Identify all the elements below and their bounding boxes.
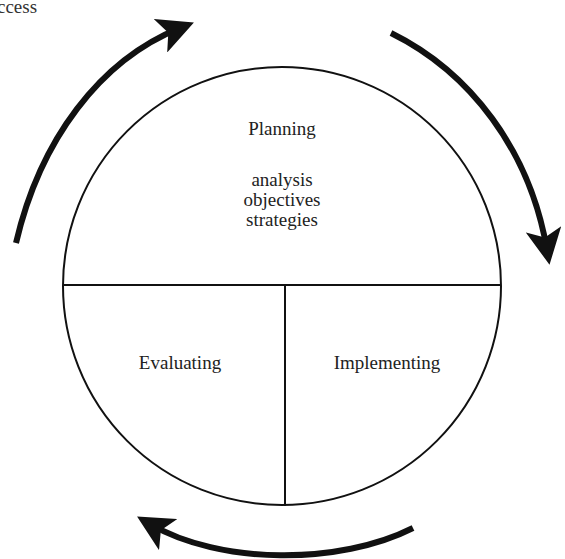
planning-item-analysis: analysis: [251, 170, 312, 190]
implementing-label: Implementing: [287, 352, 487, 374]
planning-item-strategies: strategies: [246, 210, 318, 230]
planning-items-list: analysis objectives strategies: [182, 170, 382, 230]
planning-item-objectives: objectives: [243, 190, 320, 210]
arrow-right-icon: [391, 33, 547, 250]
cycle-diagram: [0, 0, 565, 559]
evaluating-label: Evaluating: [80, 352, 280, 374]
arrow-top-left-icon: [16, 28, 180, 243]
arrow-bottom-icon: [150, 524, 413, 555]
planning-title: Planning: [182, 118, 382, 140]
